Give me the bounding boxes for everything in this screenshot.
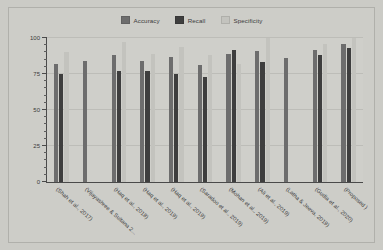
bar-group (133, 38, 162, 182)
x-label-cell: (Vijayashree & Sultana 2... (76, 184, 105, 244)
x-label-cell: (Gudla et al., 2020) (306, 184, 335, 244)
bar-specificity (179, 47, 183, 182)
bar-specificity (151, 54, 155, 182)
x-label-cell: (Haq et al., 2019) (133, 184, 162, 244)
legend-swatch-icon (221, 16, 230, 24)
bar-group (306, 38, 335, 182)
bar-accuracy (198, 65, 202, 182)
legend-item-specificity[interactable]: Specificity (221, 16, 263, 24)
bar-specificity (266, 38, 270, 182)
bar-group (248, 38, 277, 182)
bar-accuracy (112, 55, 116, 182)
bar-accuracy (284, 58, 288, 182)
bar-recall (145, 71, 149, 182)
bar-recall (318, 55, 322, 182)
bar-accuracy (255, 51, 259, 182)
x-label-cell: (Ali et al., 2019) (248, 184, 277, 244)
plot-area: 0255075100 (47, 38, 363, 182)
legend-label: Accuracy (134, 17, 160, 24)
y-tick-label: 50 (33, 107, 40, 113)
legend-swatch-icon (121, 16, 130, 24)
bar-recall (59, 74, 63, 182)
y-tick-label: 75 (33, 71, 40, 77)
y-tick-label: 25 (33, 143, 40, 149)
bar-accuracy (83, 61, 87, 182)
y-tick-label: 0 (37, 179, 40, 185)
bar-accuracy (313, 50, 317, 182)
bar-group (104, 38, 133, 182)
bar-groups (47, 38, 363, 182)
x-label-cell: (Shah et al., 2017) (47, 184, 76, 244)
bar-specificity (64, 52, 68, 182)
chart-legend: AccuracyRecallSpecificity (0, 16, 383, 24)
x-label-cell: (Latha & Jeeva, 2019) (277, 184, 306, 244)
bar-group (277, 38, 306, 182)
bar-specificity (237, 64, 241, 182)
bar-group (191, 38, 220, 182)
bar-group (162, 38, 191, 182)
x-label-cell: (Haq et al., 2018) (104, 184, 133, 244)
bar-accuracy (140, 61, 144, 182)
bar-group (219, 38, 248, 182)
bar-accuracy (169, 57, 173, 182)
bar-recall (203, 77, 207, 182)
x-axis-labels: (Shah et al., 2017)(Vijayashree & Sultan… (47, 184, 363, 244)
bar-recall (117, 71, 121, 182)
x-label-cell: (Haq et al., 2019) (162, 184, 191, 244)
bar-specificity (323, 44, 327, 182)
x-label-cell: (Proposed ) (334, 184, 363, 244)
bar-recall (174, 74, 178, 182)
legend-item-accuracy[interactable]: Accuracy (121, 16, 160, 24)
bar-group (334, 38, 363, 182)
x-axis-line (46, 182, 363, 183)
bar-recall (232, 50, 236, 182)
legend-item-recall[interactable]: Recall (175, 16, 206, 24)
bar-specificity (352, 38, 356, 182)
legend-label: Specificity (234, 17, 263, 24)
x-label-cell: (Mohan et al., 2019) (219, 184, 248, 244)
bar-accuracy (226, 54, 230, 182)
legend-label: Recall (188, 17, 206, 24)
chart-figure: AccuracyRecallSpecificity 0255075100 (Sh… (0, 0, 383, 250)
bar-accuracy (341, 44, 345, 182)
bar-recall (260, 62, 264, 182)
x-label-cell: (Saradoo et al., 2019) (191, 184, 220, 244)
bar-group (76, 38, 105, 182)
y-tick-label: 100 (30, 35, 40, 41)
legend-swatch-icon (175, 16, 184, 24)
bar-specificity (208, 55, 212, 182)
bar-specificity (122, 42, 126, 182)
bar-group (47, 38, 76, 182)
bar-accuracy (54, 64, 58, 182)
bar-recall (347, 48, 351, 182)
